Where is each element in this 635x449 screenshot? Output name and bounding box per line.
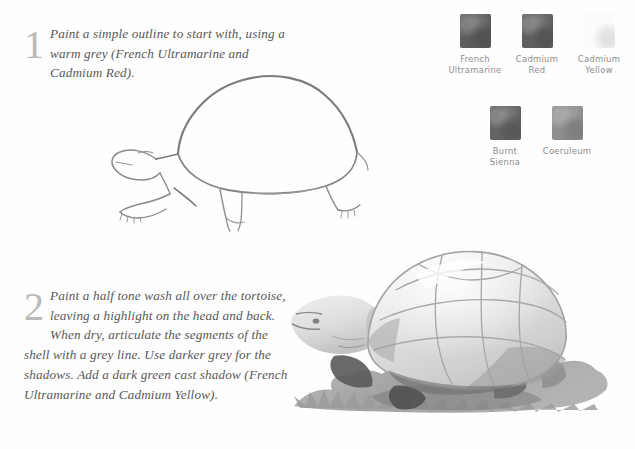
swatch-chip-french-ultramarine [460,14,491,48]
palette-swatch-panel: French Ultramarine Cadmium Red Cadmium Y… [444,14,630,180]
swatch-chip-burnt-sienna [490,106,521,140]
swatch-cadmium-red: Cadmium Red [506,14,568,77]
swatch-coeruleum: Coeruleum [536,106,598,169]
swatch-french-ultramarine: French Ultramarine [444,14,506,77]
step-number-2: 2 [24,288,44,326]
tortoise-shell [368,252,566,395]
painted-tortoise-illustration [276,228,624,428]
step-number-1: 1 [24,26,44,64]
swatch-label-coeruleum: Coeruleum [536,146,598,157]
step-text-2: Paint a half tone wash all over the tort… [24,288,287,402]
swatch-label-cadmium-yellow: Cadmium Yellow [568,54,630,77]
swatch-chip-coeruleum [552,106,583,140]
swatch-burnt-sienna: Burnt Sienna [474,106,536,169]
instruction-step-2: 2 Paint a half tone wash all over the to… [24,286,296,404]
swatch-chip-cadmium-yellow [584,14,615,48]
page-canvas: 1 Paint a simple outline to start with, … [0,0,635,449]
palette-row-top: French Ultramarine Cadmium Red Cadmium Y… [444,14,630,77]
swatch-cadmium-yellow: Cadmium Yellow [568,14,630,77]
swatch-label-cadmium-red: Cadmium Red [506,54,568,77]
swatch-chip-cadmium-red [522,14,553,48]
palette-row-bottom: Burnt Sienna Coeruleum [474,106,598,169]
swatch-label-burnt-sienna: Burnt Sienna [474,146,536,169]
outline-tortoise-illustration [110,52,390,232]
swatch-label-french-ultramarine: French Ultramarine [444,54,506,77]
